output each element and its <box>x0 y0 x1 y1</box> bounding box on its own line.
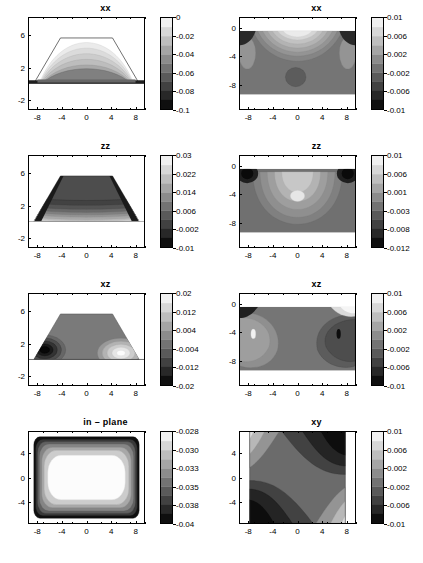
colorbar-tick-label: 0.006 <box>387 31 407 40</box>
y-tick-label: 0 <box>215 23 236 32</box>
x-minor-tick <box>327 246 328 248</box>
x-tick-label: 0 <box>84 113 88 122</box>
y-tick-label: -4 <box>215 498 236 507</box>
x-minor-tick <box>254 246 255 248</box>
colorbar-tick-label: -0.012 <box>387 244 410 253</box>
contour-surface <box>29 18 144 109</box>
colorbar-tick-label: -0.002 <box>387 482 410 491</box>
y-tick-label: -2 <box>4 234 25 243</box>
colorbar-tick-label: -0.002 <box>176 225 199 234</box>
x-minor-tick <box>268 17 269 19</box>
y-tick-label: -2 <box>4 372 25 381</box>
panel-xz-left: xz-8-404862-20.020.0120.004-0.004-0.012-… <box>0 276 211 414</box>
x-minor-tick <box>298 246 299 248</box>
x-minor-tick <box>87 246 88 248</box>
x-minor-tick <box>57 431 58 433</box>
panel-title: xx <box>211 3 422 13</box>
y-tick <box>28 344 31 345</box>
colorbar-tick-label: 0.006 <box>387 169 407 178</box>
x-tick <box>248 521 249 524</box>
x-minor-tick <box>239 246 240 248</box>
x-minor-tick <box>239 384 240 386</box>
x-minor-tick <box>145 17 146 19</box>
x-minor-tick <box>268 293 269 295</box>
x-tick-label: 8 <box>345 527 349 536</box>
colorbar-tick-label: -0.033 <box>176 464 199 473</box>
y-tick <box>239 453 242 454</box>
panel-title: zz <box>0 141 211 151</box>
colorbar-tick-label: 0.02 <box>176 289 192 298</box>
colorbar-tick-label: 0.01 <box>387 427 403 436</box>
x-tick-label: -8 <box>245 113 252 122</box>
x-minor-tick <box>101 384 102 386</box>
x-minor-tick <box>116 246 117 248</box>
x-tick <box>37 245 38 248</box>
x-minor-tick <box>341 293 342 295</box>
x-tick <box>136 521 137 524</box>
x-minor-tick <box>116 108 117 110</box>
y-tick-label: -4 <box>215 52 236 61</box>
x-minor-tick <box>268 431 269 433</box>
x-tick-label: 4 <box>109 527 113 536</box>
plot-area <box>239 293 356 386</box>
x-tick <box>322 107 323 110</box>
colorbar-tick-label: -0.028 <box>176 427 199 436</box>
panel-xx-right: xx-8-40480-4-80.010.0060.002-0.002-0.006… <box>211 0 422 138</box>
x-minor-tick <box>254 384 255 386</box>
y-tick-label: 0 <box>4 473 25 482</box>
x-minor-tick <box>268 155 269 157</box>
colorbar-tick-label: -0.004 <box>176 344 199 353</box>
contour-surface <box>29 294 144 385</box>
x-minor-tick <box>57 155 58 157</box>
x-minor-tick <box>43 431 44 433</box>
panel-title: xx <box>0 3 211 13</box>
x-tick-label: 4 <box>320 389 324 398</box>
y-tick <box>239 85 242 86</box>
x-minor-tick <box>283 155 284 157</box>
x-minor-tick <box>72 155 73 157</box>
x-minor-tick <box>298 155 299 157</box>
x-minor-tick <box>327 431 328 433</box>
x-minor-tick <box>145 431 146 433</box>
x-minor-tick <box>298 293 299 295</box>
y-tick <box>239 28 242 29</box>
x-tick-label: 0 <box>295 251 299 260</box>
x-minor-tick <box>268 522 269 524</box>
y-tick <box>28 100 31 101</box>
x-tick-label: 8 <box>345 251 349 260</box>
x-minor-tick <box>341 155 342 157</box>
colorbar-tick-label: -0.003 <box>387 206 410 215</box>
x-minor-tick <box>87 384 88 386</box>
colorbar <box>160 293 173 386</box>
colorbar-tick-label: -0.002 <box>387 68 410 77</box>
colorbar-tick-label: 0 <box>176 13 180 22</box>
x-tick-label: -8 <box>245 527 252 536</box>
x-tick <box>273 521 274 524</box>
panel-title: xz <box>211 279 422 289</box>
colorbar-tick-label: 0.014 <box>176 188 196 197</box>
x-minor-tick <box>87 17 88 19</box>
y-tick <box>239 502 242 503</box>
y-tick <box>28 311 31 312</box>
x-minor-tick <box>116 431 117 433</box>
x-minor-tick <box>43 17 44 19</box>
x-minor-tick <box>28 108 29 110</box>
x-tick <box>273 383 274 386</box>
x-minor-tick <box>239 522 240 524</box>
x-minor-tick <box>298 431 299 433</box>
y-tick-label: -8 <box>215 218 236 227</box>
x-minor-tick <box>283 17 284 19</box>
x-minor-tick <box>312 246 313 248</box>
panel-xy: xy-8-404840-40.010.0060.002-0.002-0.006-… <box>211 414 422 552</box>
colorbar-tick-label: -0.030 <box>176 445 199 454</box>
x-minor-tick <box>87 522 88 524</box>
x-minor-tick <box>327 293 328 295</box>
y-tick <box>239 223 242 224</box>
contour-surface <box>29 156 144 247</box>
y-tick-label: 6 <box>4 168 25 177</box>
y-tick <box>28 68 31 69</box>
contour-surface <box>240 18 355 109</box>
x-minor-tick <box>312 155 313 157</box>
colorbar-tick-label: 0.012 <box>176 307 196 316</box>
x-minor-tick <box>254 293 255 295</box>
